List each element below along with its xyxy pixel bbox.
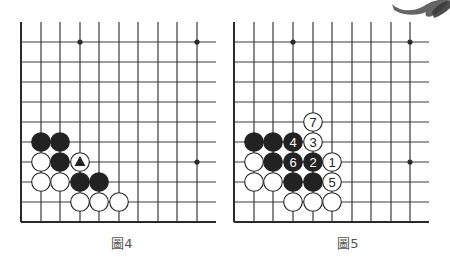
move-number: 5: [328, 175, 335, 190]
white-stone: [71, 193, 90, 212]
stone-disc: [32, 153, 51, 172]
white-stone: [110, 193, 129, 212]
stone-disc: [264, 153, 283, 172]
stone-disc: [90, 173, 109, 192]
star-point: [407, 159, 412, 164]
black-stone: [90, 173, 109, 192]
black-stone: [304, 173, 323, 192]
white-stone: 5: [323, 173, 342, 192]
black-stone: 2: [304, 153, 323, 172]
white-stone: [32, 153, 51, 172]
black-stone: 4: [284, 133, 303, 152]
stone-disc: [71, 173, 90, 192]
black-stone: [71, 173, 90, 192]
white-stone: [304, 193, 323, 212]
white-stone: 3: [304, 133, 323, 152]
go-board-figure-5: 7436215: [234, 22, 429, 222]
brush-stroke-decoration: [392, 0, 450, 18]
figure-5-caption: 圖5: [337, 233, 358, 252]
stone-disc: [32, 173, 51, 192]
go-diagrams: 7436215: [0, 0, 450, 259]
white-stone: [264, 173, 283, 192]
move-number: 1: [328, 155, 335, 170]
stone-disc: [51, 173, 70, 192]
black-stone: [264, 133, 283, 152]
stone-disc: [304, 173, 323, 192]
black-stone: [284, 173, 303, 192]
star-point: [194, 39, 199, 44]
stone-disc: [245, 173, 264, 192]
white-stone: [245, 153, 264, 172]
black-stone: [245, 133, 264, 152]
white-stone: [284, 193, 303, 212]
white-stone: [90, 193, 109, 212]
stone-disc: [245, 133, 264, 152]
star-point: [77, 39, 82, 44]
black-stone: [51, 133, 70, 152]
move-number: 6: [289, 155, 296, 170]
stone-disc: [264, 173, 283, 192]
white-stone: 1: [323, 153, 342, 172]
star-point: [290, 39, 295, 44]
stone-disc: [304, 193, 323, 212]
white-stone: [32, 173, 51, 192]
stone-disc: [51, 133, 70, 152]
stone-disc: [90, 193, 109, 212]
black-stone: [32, 133, 51, 152]
go-board-figure-4: [21, 22, 216, 222]
white-stone: [71, 153, 90, 172]
stone-disc: [51, 153, 70, 172]
move-number: 4: [289, 135, 296, 150]
stone-disc: [264, 133, 283, 152]
stone-disc: [284, 173, 303, 192]
stone-disc: [71, 193, 90, 212]
stone-disc: [32, 133, 51, 152]
stone-disc: [110, 193, 129, 212]
stone-disc: [323, 193, 342, 212]
black-stone: [264, 153, 283, 172]
white-stone: [323, 193, 342, 212]
stone-disc: [245, 153, 264, 172]
white-stone: [51, 173, 70, 192]
black-stone: [51, 153, 70, 172]
black-stone: 6: [284, 153, 303, 172]
white-stone: [245, 173, 264, 192]
figure-4-caption: 圖4: [111, 233, 132, 252]
star-point: [194, 159, 199, 164]
white-stone: 7: [304, 113, 323, 132]
stone-disc: [284, 193, 303, 212]
move-number: 7: [309, 115, 316, 130]
move-number: 3: [309, 135, 316, 150]
star-point: [407, 39, 412, 44]
move-number: 2: [309, 155, 316, 170]
